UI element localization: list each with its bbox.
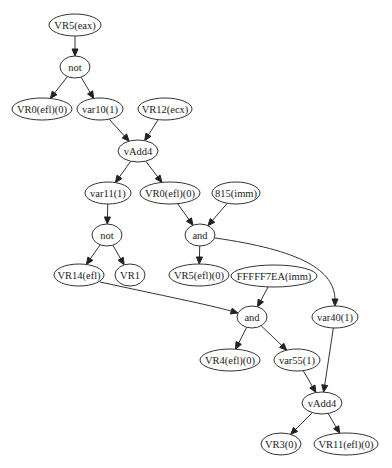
edge-n4-n6 <box>109 119 129 141</box>
node-label: var11(1) <box>90 188 126 200</box>
node-vr11-efl-0: VR11(efl)(0) <box>314 433 378 455</box>
edge-n8-n11 <box>178 204 193 226</box>
node-label: VR11(efl)(0) <box>318 439 374 451</box>
node-vadd4: vAdd4 <box>118 140 158 162</box>
edge-n12-n16 <box>100 282 238 314</box>
edge-n11-n14 <box>196 246 202 264</box>
arrowhead-icon <box>72 49 78 56</box>
arrowhead-icon <box>155 175 162 182</box>
arrowhead-icon <box>332 299 338 306</box>
arrowhead-icon <box>118 257 124 265</box>
node-label: VR5(eax) <box>54 20 96 32</box>
node-815-imm: 815(imm) <box>212 182 260 204</box>
arrowhead-icon <box>104 217 110 224</box>
node-vr12-ecx: VR12(ecx) <box>138 98 192 120</box>
node-vadd4: vAdd4 <box>302 392 342 414</box>
arrowhead-icon <box>196 257 202 264</box>
node-and: and <box>185 224 215 246</box>
node-vr5-eax: VR5(eax) <box>49 14 101 36</box>
node-not: not <box>92 224 122 246</box>
node-label: VR12(ecx) <box>142 104 189 116</box>
arrowhead-icon <box>236 342 242 350</box>
node-vr3-0: VR3(0) <box>261 433 301 455</box>
edge-n17-n20 <box>322 328 334 392</box>
node-label: not <box>68 62 82 73</box>
arrowhead-icon <box>115 175 122 182</box>
node-label: VR1 <box>120 270 140 281</box>
arrowhead-icon <box>257 299 263 307</box>
node-label: vAdd4 <box>124 146 153 157</box>
arrowhead-icon <box>310 385 316 393</box>
edge-n7-n10 <box>104 204 110 224</box>
edge-n10-n12 <box>86 245 100 265</box>
node-label: VR4(efl)(0) <box>205 355 256 367</box>
node-fffff7ea-imm: FFFFF7EA(imm) <box>231 265 317 287</box>
node-var10-1: var10(1) <box>77 98 123 120</box>
arrowhead-icon <box>86 257 92 264</box>
node-label: var55(1) <box>279 355 316 367</box>
edge-n2-n4 <box>81 77 94 98</box>
node-and: and <box>237 306 267 328</box>
edge-n1-n2 <box>72 36 78 56</box>
node-label: 815(imm) <box>215 188 257 200</box>
edge-n5-n6 <box>145 120 158 141</box>
node-vr0-efl-0: VR0(efl)(0) <box>140 182 200 204</box>
arrowhead-icon <box>230 308 238 314</box>
arrowhead-icon <box>145 133 151 141</box>
node-label: and <box>244 312 260 323</box>
arrowhead-icon <box>50 91 57 98</box>
arrowhead-icon <box>322 385 328 392</box>
node-label: not <box>100 230 114 241</box>
node-label: FFFFF7EA(imm) <box>237 271 312 283</box>
edge-n16-n19 <box>261 326 287 350</box>
edge-n19-n20 <box>303 371 316 393</box>
graph-diagram: VR5(eax)notVR0(efl)(0)var10(1)VR12(ecx)v… <box>0 0 392 468</box>
node-vr14-efl: VR14(efl) <box>54 264 104 286</box>
edge-n9-n11 <box>208 203 227 225</box>
node-label: VR0(efl)(0) <box>17 104 68 116</box>
edge-n2-n3 <box>50 77 67 99</box>
arrowhead-icon <box>187 218 194 225</box>
arrowhead-icon <box>334 426 340 434</box>
node-var11-1: var11(1) <box>85 182 131 204</box>
node-label: VR5(efl)(0) <box>174 270 225 282</box>
node-vr1: VR1 <box>115 264 145 286</box>
edge-n16-n18 <box>236 327 247 349</box>
edge-n20-n21 <box>291 413 313 435</box>
node-not: not <box>60 56 90 78</box>
edge-n20-n22 <box>328 413 340 433</box>
node-vr5-efl-0: VR5(efl)(0) <box>169 264 229 286</box>
node-vr0-efl-0: VR0(efl)(0) <box>12 98 72 120</box>
node-label: var40(1) <box>317 312 354 324</box>
node-vr4-efl-0: VR4(efl)(0) <box>200 349 260 371</box>
edge-n10-n13 <box>113 245 124 265</box>
node-label: VR14(efl) <box>57 270 101 282</box>
node-var55-1: var55(1) <box>274 349 320 371</box>
node-var40-1: var40(1) <box>312 306 358 328</box>
node-label: VR0(efl)(0) <box>145 188 196 200</box>
node-label: var10(1) <box>82 104 119 116</box>
node-label: vAdd4 <box>308 398 337 409</box>
arrowhead-icon <box>88 91 94 99</box>
edge-n6-n8 <box>146 161 162 182</box>
edge-n6-n7 <box>115 161 130 182</box>
edge-n15-n16 <box>257 287 268 307</box>
node-label: and <box>192 230 208 241</box>
node-label: VR3(0) <box>265 439 298 451</box>
